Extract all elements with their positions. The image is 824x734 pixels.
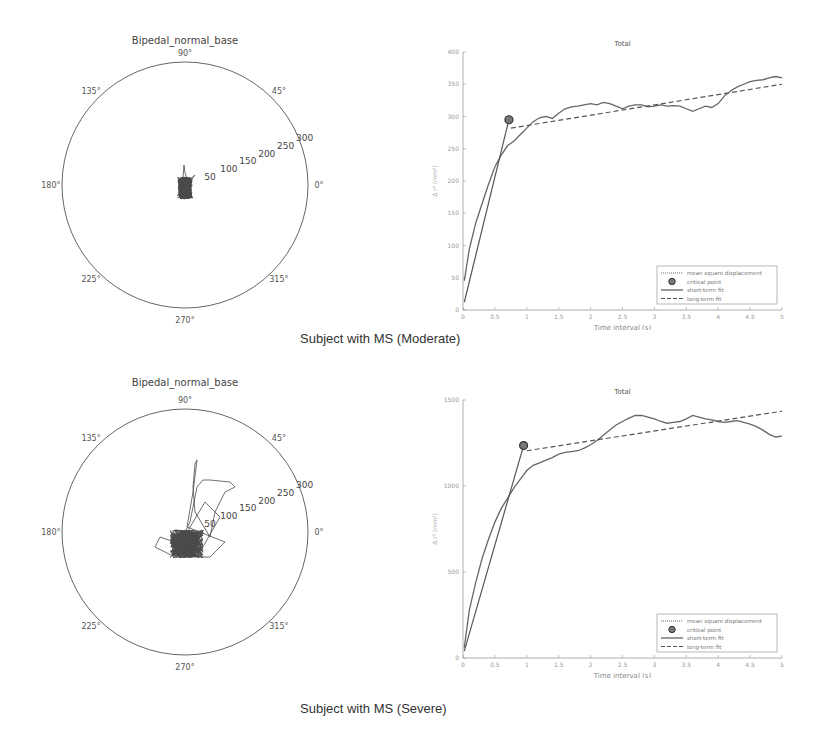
y-tick-label: 200 — [448, 177, 460, 184]
msd-chart-moderate: Total00.511.522.533.544.5505010015020025… — [420, 30, 820, 330]
x-tick-label: 2 — [589, 661, 593, 668]
radial-tick-label: 150 — [239, 503, 256, 513]
polar-plot-moderate: Bipedal_normal_base0°45°90°135°180°225°2… — [30, 30, 340, 340]
x-tick-label: 1.5 — [554, 313, 564, 320]
radial-tick-label: 150 — [239, 156, 256, 166]
legend: mean square displacementcritical pointsh… — [657, 266, 777, 304]
radial-tick-label: 100 — [220, 511, 237, 521]
polar-canvas: Bipedal_normal_base0°45°90°135°180°225°2… — [30, 30, 340, 340]
angle-tick-label: 0° — [315, 528, 324, 537]
angle-tick-label: 270° — [175, 663, 194, 672]
caption-severe: Subject with MS (Severe) — [300, 701, 447, 716]
angle-tick-label: 315° — [269, 275, 288, 284]
angle-tick-label: 270° — [175, 316, 194, 325]
msd-curve — [464, 77, 782, 281]
angle-tick-label: 180° — [41, 528, 60, 537]
msd-canvas: Total00.511.522.533.544.5505010015020025… — [420, 30, 820, 330]
legend-entry: short-term fit — [687, 287, 724, 293]
legend-entry: long-term fit — [687, 296, 722, 303]
short-term-fit-line — [464, 446, 523, 652]
x-tick-label: 3.5 — [682, 661, 692, 668]
legend-entry: long-term fit — [687, 644, 722, 651]
angle-tick-label: 135° — [81, 434, 100, 443]
msd-curve — [464, 415, 782, 647]
critical-point-marker — [520, 442, 528, 450]
angle-tick-label: 315° — [269, 622, 288, 631]
y-tick-label: 300 — [448, 113, 460, 120]
radial-tick-label: 200 — [258, 496, 275, 506]
legend-entry: critical point — [687, 279, 722, 286]
angle-tick-label: 225° — [81, 622, 100, 631]
x-tick-label: 3.5 — [682, 313, 692, 320]
short-term-fit-line — [464, 120, 509, 303]
x-tick-label: 4 — [716, 313, 720, 320]
x-tick-label: 0.5 — [490, 661, 500, 668]
y-tick-label: 1500 — [444, 396, 459, 403]
y-tick-label: 0 — [455, 306, 459, 313]
x-tick-label: 1 — [525, 313, 529, 320]
y-tick-label: 250 — [448, 145, 460, 152]
radial-tick-label: 300 — [296, 480, 313, 490]
angle-tick-label: 135° — [81, 87, 100, 96]
x-axis-label: Time interval (s) — [593, 672, 652, 678]
y-axis-label: Δ r² (mm²) — [431, 513, 438, 545]
x-tick-label: 5 — [780, 313, 784, 320]
x-tick-label: 4.5 — [745, 313, 755, 320]
legend-entry: critical point — [687, 627, 722, 634]
cop-trajectory — [177, 165, 195, 199]
x-tick-label: 4.5 — [745, 661, 755, 668]
x-tick-label: 0.5 — [490, 313, 500, 320]
legend-entry: mean square displacement — [687, 618, 763, 625]
radial-tick-label: 100 — [220, 164, 237, 174]
legend-entry: mean square displacement — [687, 270, 763, 277]
polar-canvas: Bipedal_normal_base0°45°90°135°180°225°2… — [30, 372, 340, 682]
chart-title: Total — [613, 388, 630, 396]
x-tick-label: 3 — [652, 661, 656, 668]
angle-tick-label: 45° — [272, 87, 286, 96]
angle-tick-label: 180° — [41, 181, 60, 190]
long-term-fit-line — [527, 411, 782, 451]
angle-tick-label: 90° — [178, 49, 192, 58]
y-tick-label: 1000 — [444, 482, 459, 489]
radial-tick-label: 300 — [296, 133, 313, 143]
y-tick-label: 0 — [455, 654, 459, 661]
angle-tick-label: 225° — [81, 275, 100, 284]
x-tick-label: 2 — [589, 313, 593, 320]
y-tick-label: 50 — [451, 274, 459, 281]
angle-tick-label: 45° — [272, 434, 286, 443]
long-term-fit-line — [511, 84, 782, 128]
caption-moderate: Subject with MS (Moderate) — [300, 331, 460, 346]
critical-point-marker — [505, 116, 513, 124]
x-tick-label: 1 — [525, 661, 529, 668]
polar-plot-severe: Bipedal_normal_base0°45°90°135°180°225°2… — [30, 372, 340, 682]
y-tick-label: 150 — [448, 209, 460, 216]
x-tick-label: 4 — [716, 661, 720, 668]
y-tick-label: 350 — [448, 80, 460, 87]
x-tick-label: 0 — [461, 313, 465, 320]
x-tick-label: 5 — [780, 661, 784, 668]
legend: mean square displacementcritical pointsh… — [657, 614, 777, 652]
cop-trajectory — [155, 460, 235, 558]
chart-title: Total — [613, 40, 630, 48]
angle-tick-label: 90° — [178, 396, 192, 405]
y-axis-label: Δ r² (mm²) — [431, 165, 438, 197]
radial-tick-label: 200 — [258, 149, 275, 159]
y-tick-label: 100 — [448, 242, 460, 249]
x-tick-label: 2.5 — [618, 313, 628, 320]
radial-tick-label: 250 — [277, 141, 294, 151]
x-tick-label: 2.5 — [618, 661, 628, 668]
y-tick-label: 500 — [448, 568, 460, 575]
angle-tick-label: 0° — [315, 181, 324, 190]
x-tick-label: 0 — [461, 661, 465, 668]
radial-tick-label: 250 — [277, 488, 294, 498]
x-axis-label: Time interval (s) — [593, 324, 652, 330]
y-tick-label: 400 — [448, 48, 460, 55]
msd-chart-severe: Total00.511.522.533.544.55050010001500Ti… — [420, 378, 820, 678]
msd-canvas: Total00.511.522.533.544.55050010001500Ti… — [420, 378, 820, 678]
radial-tick-label: 50 — [204, 172, 216, 182]
polar-title: Bipedal_normal_base — [132, 377, 238, 389]
polar-title: Bipedal_normal_base — [132, 35, 238, 47]
x-tick-label: 3 — [652, 313, 656, 320]
x-tick-label: 1.5 — [554, 661, 564, 668]
legend-entry: short-term fit — [687, 635, 724, 641]
